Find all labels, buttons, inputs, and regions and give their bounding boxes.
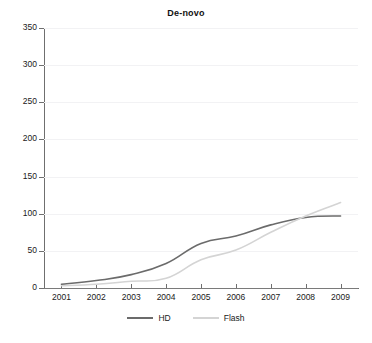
y-tick-label-50: 50 [3,246,37,255]
legend-swatch-hd [127,317,153,319]
series-group [44,28,358,288]
legend-label-flash: Flash [224,313,245,323]
x-tick-label-2009: 2009 [321,292,361,302]
y-tick-label-300: 300 [3,60,37,69]
y-tick-label-0: 0 [3,283,37,292]
legend-swatch-flash [193,317,219,319]
y-tick-label-200: 200 [3,134,37,143]
series-line-hd [61,216,340,284]
chart-legend: HDFlash [0,313,372,323]
legend-entry-flash[interactable]: Flash [193,313,245,323]
y-tick-label-150: 150 [3,172,37,181]
y-tick-label-350: 350 [3,23,37,32]
legend-entry-hd[interactable]: HD [127,313,170,323]
gridline-0 [44,288,358,289]
legend-label-hd: HD [158,313,170,323]
plot-area [44,28,358,288]
y-tick-label-250: 250 [3,97,37,106]
chart-container: De-novo 050100150200250300350 2001200220… [0,0,372,343]
chart-title: De-novo [0,8,372,18]
y-tick-label-100: 100 [3,209,37,218]
y-axis-label-group: 050100150200250300350 [0,0,37,343]
